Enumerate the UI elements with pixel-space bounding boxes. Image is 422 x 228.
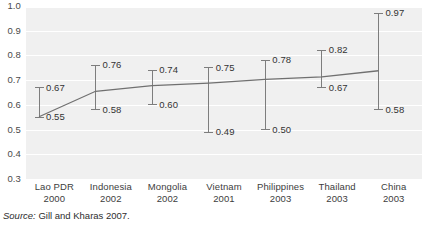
y-tick-label: 0.6 (7, 100, 21, 110)
source-text: Gill and Kharas 2007. (38, 210, 129, 221)
source-label: Source: (3, 210, 36, 221)
x-axis-year-label: 2003 (365, 193, 422, 205)
x-axis-country-label: Vietnam (196, 181, 253, 193)
x-axis-year-label: 2002 (83, 193, 140, 205)
x-axis-category: Vietnam2001 (196, 181, 253, 205)
x-axis-category: Indonesia2002 (83, 181, 140, 205)
errorbar-upper-label: 0.97 (385, 8, 404, 18)
errorbar-lower-label: 0.50 (272, 125, 291, 135)
errorbar-lower-label: 0.55 (46, 112, 65, 122)
x-axis-country-label: Philippines (252, 181, 309, 193)
y-tick-label: 0.3 (7, 174, 21, 184)
x-axis-year-label: 2000 (26, 193, 83, 205)
y-tick-label: 0.8 (7, 50, 21, 60)
x-axis-country-label: Lao PDR (26, 181, 83, 193)
x-axis-country-label: China (365, 181, 422, 193)
y-tick-label: 0.4 (7, 149, 21, 159)
source-note: Source: Gill and Kharas 2007. (3, 210, 130, 222)
errorbar-lower-label: 0.58 (385, 105, 404, 115)
x-axis-category: China2003 (365, 181, 422, 205)
y-tick-label: 1.0 (7, 1, 21, 11)
y-tick-label: 0.7 (7, 75, 21, 85)
errorbar-lower-label: 0.49 (216, 127, 235, 137)
x-axis-category: Thailand2003 (309, 181, 366, 205)
y-tick-label: 0.5 (7, 125, 21, 135)
x-axis-country-label: Mongolia (139, 181, 196, 193)
x-axis-country-label: Indonesia (83, 181, 140, 193)
errorbar-lower-label: 0.67 (329, 83, 348, 93)
series-value-labels: 0.670.550.760.580.740.600.750.490.780.50… (26, 6, 422, 179)
x-axis-year-label: 2003 (309, 193, 366, 205)
errorbar-upper-label: 0.75 (216, 63, 235, 73)
y-tick-label: 0.9 (7, 26, 21, 36)
x-axis-category: Mongolia2002 (139, 181, 196, 205)
y-axis: 1.00.90.80.70.60.50.40.3 (0, 0, 24, 228)
x-axis-country-label: Thailand (309, 181, 366, 193)
x-axis-year-label: 2001 (196, 193, 253, 205)
errorbar-upper-label: 0.74 (159, 65, 178, 75)
x-axis-category: Lao PDR2000 (26, 181, 83, 205)
x-axis-year-label: 2003 (252, 193, 309, 205)
gridline (26, 179, 422, 180)
x-axis-year-label: 2002 (139, 193, 196, 205)
errorbar-upper-label: 0.67 (46, 83, 65, 93)
errorbar-lower-label: 0.60 (159, 100, 178, 110)
chart-figure: 1.00.90.80.70.60.50.40.3 0.670.550.760.5… (0, 0, 422, 228)
errorbar-upper-label: 0.76 (103, 60, 122, 70)
errorbar-upper-label: 0.82 (329, 45, 348, 55)
errorbar-lower-label: 0.58 (103, 105, 122, 115)
errorbar-upper-label: 0.78 (272, 55, 291, 65)
x-axis: Lao PDR2000Indonesia2002Mongolia2002Viet… (26, 181, 422, 209)
x-axis-category: Philippines2003 (252, 181, 309, 205)
